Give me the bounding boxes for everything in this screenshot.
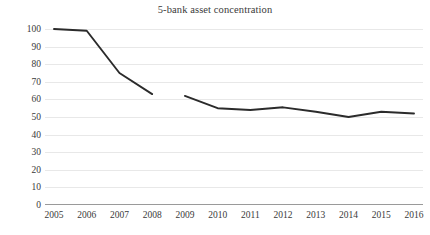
y-tick-label: 20 xyxy=(1,165,41,175)
y-tick-label: 10 xyxy=(1,182,41,192)
x-tick-label: 2016 xyxy=(394,210,430,220)
y-tick-label: 90 xyxy=(1,42,41,52)
gridline xyxy=(45,64,423,65)
gridline xyxy=(45,135,423,136)
gridline xyxy=(45,152,423,153)
gridline xyxy=(45,99,423,100)
gridline xyxy=(45,187,423,188)
y-tick-label: 70 xyxy=(1,77,41,87)
y-tick-label: 60 xyxy=(1,94,41,104)
gridline xyxy=(45,170,423,171)
y-tick-label: 40 xyxy=(1,130,41,140)
y-tick-label: 30 xyxy=(1,147,41,157)
plot-area xyxy=(45,29,423,205)
chart-title: 5-bank asset concentration xyxy=(0,4,430,15)
gridline xyxy=(45,82,423,83)
y-tick-label: 50 xyxy=(1,112,41,122)
gridline xyxy=(45,29,423,30)
x-axis-line xyxy=(45,204,423,205)
y-tick-label: 0 xyxy=(1,200,41,210)
chart-container: 5-bank asset concentration 0102030405060… xyxy=(0,0,430,235)
y-axis-labels: 0102030405060708090100 xyxy=(0,29,41,205)
gridline xyxy=(45,47,423,48)
y-tick-label: 100 xyxy=(1,24,41,34)
gridline xyxy=(45,117,423,118)
y-tick-label: 80 xyxy=(1,59,41,69)
